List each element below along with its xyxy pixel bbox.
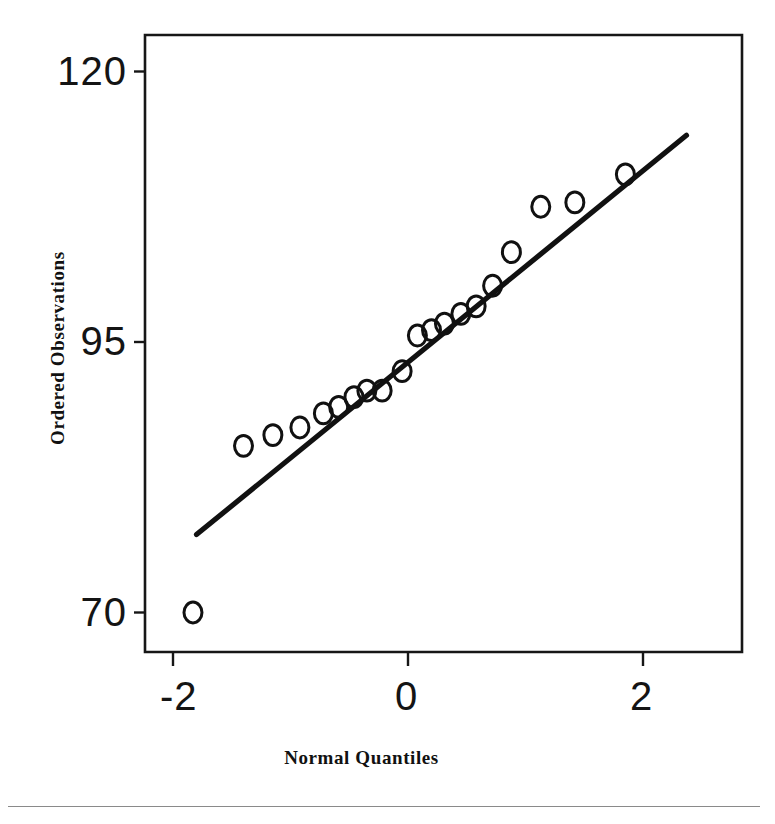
axis-frame (145, 35, 742, 652)
page-footer-rule (8, 806, 760, 807)
plot-frame-border (145, 35, 742, 652)
data-point (616, 164, 634, 185)
qq-plot-figure: 120 95 70 -2 0 2 Normal Quantiles Ordere… (0, 0, 775, 824)
data-point (566, 192, 584, 213)
y-tick-label-70: 70 (81, 592, 128, 632)
data-point (264, 425, 282, 446)
data-point (291, 417, 309, 438)
x-axis-title: Normal Quantiles (0, 748, 775, 767)
axis-ticks (134, 72, 643, 667)
y-tick-label-120: 120 (57, 51, 127, 91)
data-point (502, 242, 520, 263)
y-axis-title: Ordered Observations (48, 251, 67, 445)
y-tick-label-95: 95 (81, 321, 128, 361)
x-tick-label-2: 2 (0, 676, 775, 716)
data-point (184, 602, 202, 623)
data-point (235, 435, 253, 456)
data-point (532, 196, 550, 217)
